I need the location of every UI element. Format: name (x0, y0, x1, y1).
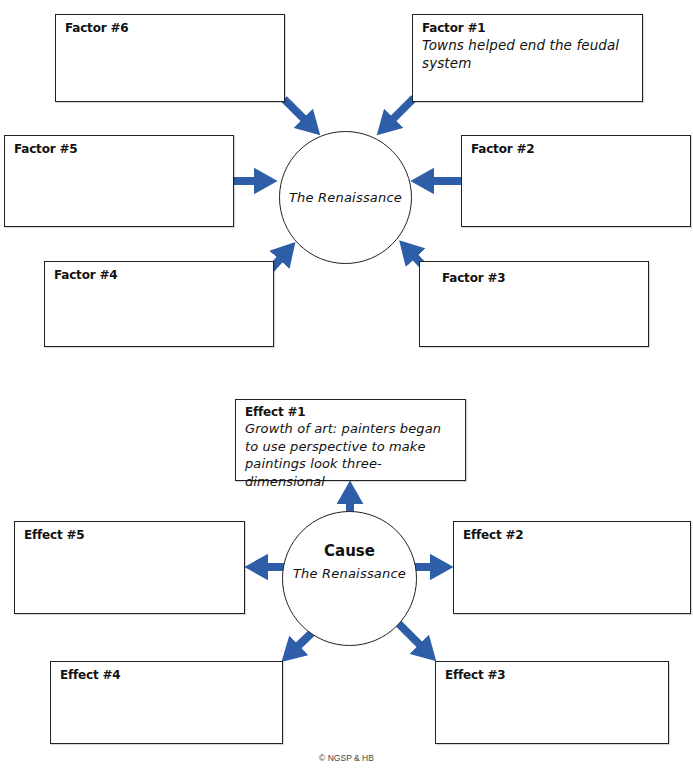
factor-1-box[interactable]: Factor #1 Towns helped end the feudal sy… (412, 14, 643, 102)
arrow-factor-1-icon (392, 98, 414, 120)
factor-2-box[interactable]: Factor #2 (461, 135, 691, 227)
factor-2-label: Factor #2 (471, 142, 681, 156)
factors-center-circle: The Renaissance (279, 131, 412, 264)
factor-1-content[interactable]: Towns helped end the feudal system (422, 36, 633, 72)
arrow-factor-6-icon (284, 99, 305, 120)
factors-center-text: The Renaissance (289, 190, 402, 205)
factor-5-label: Factor #5 (14, 142, 224, 156)
effects-center-text: The Renaissance (293, 566, 406, 581)
effect-1-box[interactable]: Effect #1 Growth of art: painters began … (235, 399, 466, 481)
effect-1-label: Effect #1 (245, 405, 456, 419)
effects-center-circle: Cause The Renaissance (282, 511, 417, 646)
effect-5-label: Effect #5 (24, 528, 235, 542)
factor-5-box[interactable]: Factor #5 (4, 135, 234, 227)
factor-3-box[interactable]: Factor #3 (419, 261, 649, 347)
factor-1-label: Factor #1 (422, 21, 633, 35)
arrow-effect-3-icon (397, 622, 421, 646)
effect-5-box[interactable]: Effect #5 (14, 521, 245, 614)
effect-4-box[interactable]: Effect #4 (50, 661, 283, 744)
effect-3-box[interactable]: Effect #3 (435, 661, 669, 744)
factor-3-label: Factor #3 (442, 271, 639, 285)
copyright-notice: © NGSP & HB (0, 753, 693, 763)
factor-6-label: Factor #6 (65, 21, 275, 35)
effect-1-content[interactable]: Growth of art: painters began to use per… (245, 420, 456, 490)
cause-title: Cause (324, 542, 375, 560)
factor-6-box[interactable]: Factor #6 (55, 14, 285, 102)
factor-4-box[interactable]: Factor #4 (44, 261, 274, 347)
effect-2-box[interactable]: Effect #2 (453, 521, 691, 614)
factor-4-label: Factor #4 (54, 268, 264, 282)
effect-3-label: Effect #3 (445, 668, 659, 682)
effect-4-label: Effect #4 (60, 668, 273, 682)
effect-2-label: Effect #2 (463, 528, 681, 542)
